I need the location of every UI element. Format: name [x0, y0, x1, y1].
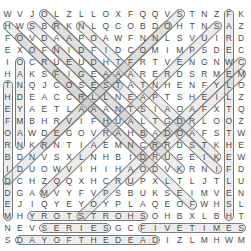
letter-cell[interactable]: B [112, 151, 124, 163]
letter-cell[interactable]: V [161, 163, 173, 175]
letter-cell[interactable]: M [211, 222, 223, 234]
letter-cell[interactable]: A [223, 20, 235, 32]
letter-cell[interactable]: Y [75, 198, 87, 210]
letter-cell[interactable]: X [75, 175, 87, 187]
letter-cell[interactable]: R [2, 139, 14, 151]
letter-cell[interactable]: B [137, 127, 149, 139]
letter-cell[interactable]: A [125, 163, 137, 175]
letter-cell[interactable]: K [211, 139, 223, 151]
letter-cell[interactable]: R [38, 210, 50, 222]
letter-cell[interactable]: F [75, 187, 87, 199]
letter-cell[interactable]: E [100, 139, 112, 151]
letter-cell[interactable]: U [51, 56, 63, 68]
letter-cell[interactable]: M [38, 187, 50, 199]
letter-cell[interactable]: V [38, 151, 50, 163]
letter-cell[interactable]: G [75, 68, 87, 80]
letter-cell[interactable]: M [211, 68, 223, 80]
letter-cell[interactable]: S [51, 151, 63, 163]
letter-cell[interactable]: K [235, 8, 247, 20]
letter-cell[interactable]: U [125, 175, 137, 187]
letter-cell[interactable]: O [38, 163, 50, 175]
letter-cell[interactable]: R [149, 151, 161, 163]
letter-cell[interactable]: M [112, 139, 124, 151]
letter-cell[interactable]: L [88, 8, 100, 20]
letter-cell[interactable]: X [14, 44, 26, 56]
letter-cell[interactable]: Z [235, 115, 247, 127]
letter-cell[interactable]: I [75, 115, 87, 127]
letter-cell[interactable]: B [2, 151, 14, 163]
letter-cell[interactable]: S [75, 210, 87, 222]
letter-cell[interactable]: S [174, 32, 186, 44]
letter-cell[interactable]: E [223, 68, 235, 80]
letter-cell[interactable]: E [88, 222, 100, 234]
letter-cell[interactable]: A [38, 91, 50, 103]
letter-cell[interactable]: E [186, 151, 198, 163]
letter-cell[interactable]: C [51, 79, 63, 91]
letter-cell[interactable]: T [51, 103, 63, 115]
letter-cell[interactable]: Q [235, 103, 247, 115]
letter-cell[interactable]: E [100, 234, 112, 246]
letter-cell[interactable]: N [186, 56, 198, 68]
letter-cell[interactable]: C [125, 222, 137, 234]
letter-cell[interactable]: E [235, 139, 247, 151]
letter-cell[interactable]: O [26, 44, 38, 56]
letter-cell[interactable]: V [63, 163, 75, 175]
letter-cell[interactable]: F [88, 115, 100, 127]
letter-cell[interactable]: I [149, 222, 161, 234]
letter-cell[interactable]: R [112, 175, 124, 187]
letter-cell[interactable]: T [75, 234, 87, 246]
letter-cell[interactable]: M [2, 210, 14, 222]
letter-cell[interactable]: O [51, 234, 63, 246]
letter-cell[interactable]: A [100, 32, 112, 44]
letter-cell[interactable]: H [2, 91, 14, 103]
letter-cell[interactable]: D [235, 32, 247, 44]
letter-cell[interactable]: I [211, 91, 223, 103]
letter-cell[interactable]: H [100, 115, 112, 127]
letter-cell[interactable]: E [125, 91, 137, 103]
letter-cell[interactable]: M [14, 115, 26, 127]
letter-cell[interactable]: E [223, 151, 235, 163]
letter-cell[interactable]: P [137, 175, 149, 187]
letter-cell[interactable]: T [125, 103, 137, 115]
letter-cell[interactable]: A [137, 198, 149, 210]
letter-cell[interactable]: Y [100, 198, 112, 210]
letter-cell[interactable]: B [211, 210, 223, 222]
letter-cell[interactable]: W [2, 8, 14, 20]
letter-cell[interactable]: C [112, 20, 124, 32]
letter-cell[interactable]: D [149, 20, 161, 32]
letter-cell[interactable]: L [63, 103, 75, 115]
letter-cell[interactable]: I [198, 222, 210, 234]
letter-cell[interactable]: Q [137, 8, 149, 20]
letter-cell[interactable]: O [51, 210, 63, 222]
letter-cell[interactable]: T [235, 210, 247, 222]
letter-cell[interactable]: Q [26, 79, 38, 91]
letter-cell[interactable]: I [100, 163, 112, 175]
letter-cell[interactable]: A [88, 103, 100, 115]
letter-cell[interactable]: B [125, 187, 137, 199]
letter-cell[interactable]: A [75, 103, 87, 115]
letter-cell[interactable]: O [137, 44, 149, 56]
letter-cell[interactable]: D [2, 187, 14, 199]
letter-cell[interactable]: W [198, 198, 210, 210]
letter-cell[interactable]: E [223, 222, 235, 234]
letter-cell[interactable]: R [63, 222, 75, 234]
letter-cell[interactable]: E [223, 44, 235, 56]
letter-cell[interactable]: A [63, 32, 75, 44]
letter-cell[interactable]: D [14, 163, 26, 175]
letter-cell[interactable]: L [75, 8, 87, 20]
letter-cell[interactable]: O [14, 32, 26, 44]
letter-cell[interactable]: T [112, 79, 124, 91]
letter-cell[interactable]: H [2, 20, 14, 32]
letter-cell[interactable]: A [186, 103, 198, 115]
letter-cell[interactable]: F [223, 8, 235, 20]
letter-cell[interactable]: E [2, 198, 14, 210]
letter-cell[interactable]: R [51, 115, 63, 127]
letter-cell[interactable]: O [211, 115, 223, 127]
letter-cell[interactable]: I [63, 68, 75, 80]
letter-cell[interactable]: W [235, 151, 247, 163]
letter-cell[interactable]: V [211, 187, 223, 199]
letter-cell[interactable]: Q [38, 198, 50, 210]
letter-cell[interactable]: F [198, 127, 210, 139]
letter-cell[interactable]: E [88, 79, 100, 91]
letter-cell[interactable]: I [211, 163, 223, 175]
